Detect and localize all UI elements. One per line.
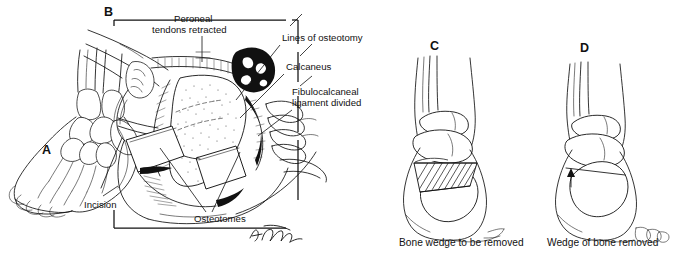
illustration-canvas: A Incision B: [0, 0, 681, 255]
callout-peroneal-line1: Peroneal: [174, 13, 212, 24]
callout-peroneal-line2: tendons retracted: [152, 24, 227, 35]
caption-panel-c: Bone wedge to be removed: [399, 237, 524, 248]
callout-osteotomes: Osteotomes: [194, 213, 246, 224]
caption-panel-d: Wedge of bone removed: [547, 237, 659, 248]
panel-c-ankle-joint: [413, 111, 472, 163]
callout-fibulocalcaneal-line1: Fibulocalcaneal: [292, 86, 359, 97]
callout-fibulocalcaneal-line2: ligament divided: [292, 97, 361, 108]
callout-calcaneus: Calcaneus: [286, 61, 332, 72]
panel-d-ankle-joint: [565, 115, 624, 167]
panel-letter-d: D: [580, 41, 589, 55]
figure-root: A Incision B: [0, 0, 681, 255]
panel-letter-b: B: [104, 5, 113, 19]
panel-letter-c: C: [430, 39, 439, 53]
panel-letter-a: A: [42, 143, 51, 157]
callout-lines-osteotomy: Lines of osteotomy: [282, 32, 363, 43]
callout-incision: Incision: [84, 199, 117, 210]
